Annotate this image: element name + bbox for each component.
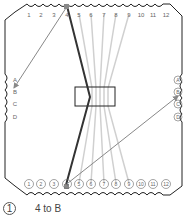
top-label-10: 10 — [138, 12, 145, 18]
bottom-label-6: 6 — [90, 181, 93, 187]
top-label-7: 7 — [102, 12, 106, 18]
bottom-label-2: 2 — [40, 181, 43, 187]
legend: 1 4 to B — [3, 200, 61, 216]
bottom-pin-labels: 1 2 3 4 5 6 7 8 9 10 11 12 — [28, 181, 169, 187]
bottom-label-12: 12 — [163, 181, 169, 187]
right-label-c: C — [176, 101, 180, 107]
bottom-label-1: 1 — [28, 181, 31, 187]
top-label-9: 9 — [127, 12, 131, 18]
bottom-label-9: 9 — [128, 181, 131, 187]
arrow-bottom4-to-right-b — [68, 96, 178, 183]
bottom-label-5: 5 — [78, 181, 81, 187]
splice-box — [75, 87, 115, 106]
bottom-label-4: 4 — [66, 181, 69, 187]
wiring-diagram: 1 2 3 4 5 6 7 8 9 10 11 12 A B C D A B C… — [0, 0, 195, 200]
right-label-d: D — [176, 114, 180, 120]
top-label-3: 3 — [52, 12, 56, 18]
left-label-c: C — [13, 101, 18, 107]
connector-outline — [5, 4, 182, 195]
left-label-a: A — [13, 77, 17, 83]
step-number-badge: 1 — [3, 202, 16, 215]
highlight-wire — [66, 6, 90, 185]
left-label-b: B — [13, 89, 17, 95]
bottom-label-3: 3 — [53, 181, 56, 187]
top-label-12: 12 — [163, 12, 170, 18]
top-label-2: 2 — [39, 12, 43, 18]
bottom-label-11: 11 — [150, 181, 155, 187]
top-pin-labels: 1 2 3 4 5 6 7 8 9 10 11 12 — [27, 12, 170, 18]
top-pin-4-marker — [64, 4, 69, 9]
top-label-6: 6 — [89, 12, 93, 18]
bottom-label-10: 10 — [138, 181, 144, 187]
top-label-11: 11 — [150, 12, 157, 18]
top-label-5: 5 — [77, 12, 81, 18]
bottom-label-8: 8 — [115, 181, 118, 187]
other-wires — [79, 14, 129, 183]
left-label-d: D — [13, 114, 18, 120]
top-label-8: 8 — [114, 12, 118, 18]
arrow-top4-to-left-b — [14, 8, 66, 88]
top-label-1: 1 — [27, 12, 31, 18]
bottom-pin-circles — [25, 180, 171, 189]
bottom-label-7: 7 — [103, 181, 106, 187]
step-text: 4 to B — [35, 203, 61, 214]
